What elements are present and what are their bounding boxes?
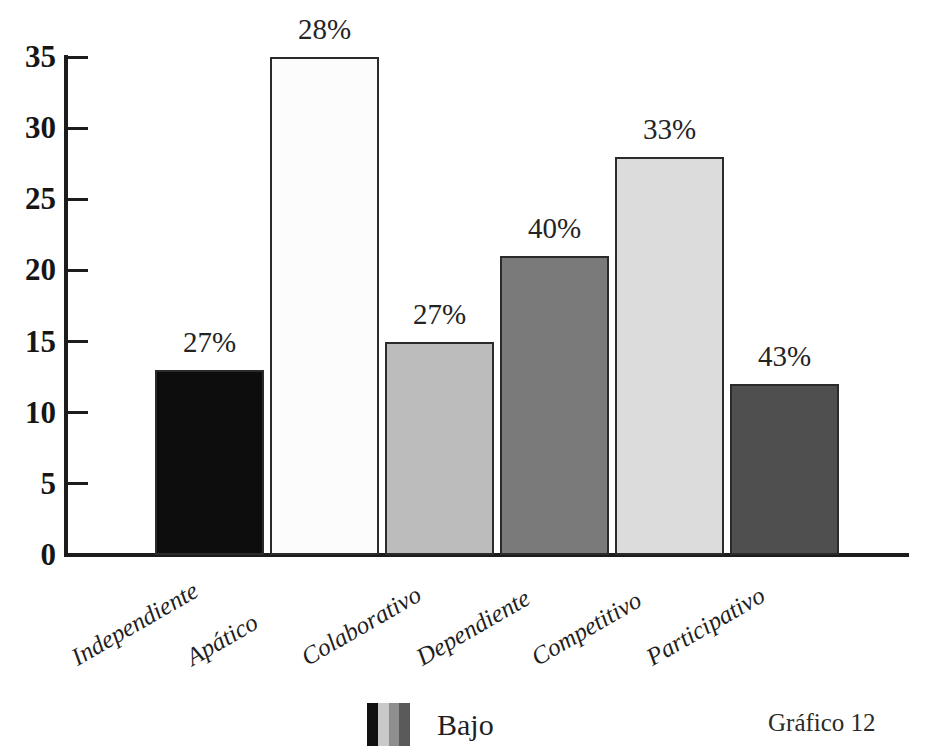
x-axis-category-label: Participativo	[642, 582, 769, 670]
y-axis-tick-label: 30	[4, 112, 56, 143]
bar-value-label: 43%	[720, 342, 849, 371]
bar-value-label: 28%	[260, 15, 389, 44]
x-axis-category-label: Competitivo	[527, 587, 645, 670]
y-axis-tick-label: 25	[4, 183, 56, 214]
legend-swatch-stripe	[399, 703, 410, 746]
bar-value-label: 27%	[145, 328, 274, 357]
bar-chart: 05101520253035 27%28%27%40%33%43% Indepe…	[0, 0, 931, 748]
legend-swatch-bajo	[367, 703, 410, 746]
bar-value-label: 27%	[375, 300, 504, 329]
y-axis-tick-label: 20	[4, 254, 56, 285]
legend-swatch-stripe	[378, 703, 389, 746]
chart-caption: Gráfico 12	[768, 710, 876, 735]
y-axis-tick	[66, 269, 88, 272]
bar	[615, 157, 724, 555]
y-axis-tick	[66, 340, 88, 343]
y-axis-tick-label: 35	[4, 41, 56, 72]
bar	[730, 384, 839, 555]
y-axis-tick-label: 10	[4, 397, 56, 428]
bar	[385, 342, 494, 555]
legend-swatch-stripe	[389, 703, 400, 746]
y-axis-tick-label: 15	[4, 326, 56, 357]
y-axis-tick	[66, 56, 88, 59]
legend-label-bajo: Bajo	[437, 710, 494, 740]
bar	[270, 57, 379, 555]
x-axis-category-label: Dependiente	[412, 585, 534, 670]
bar	[155, 370, 264, 555]
y-axis-tick	[66, 482, 88, 485]
legend-swatch-stripe	[367, 703, 378, 746]
chart-legend: Bajo	[367, 703, 494, 746]
y-axis-tick	[66, 411, 88, 414]
y-axis-tick	[66, 198, 88, 201]
x-axis-category-label: Colaborativo	[297, 581, 425, 669]
y-axis-tick-label: 5	[4, 468, 56, 499]
bar-value-label: 40%	[490, 214, 619, 243]
y-axis-tick	[66, 127, 88, 130]
x-axis-category-label: Apático	[182, 609, 262, 670]
y-axis-tick	[66, 554, 88, 557]
x-axis-category-label: Independiente	[67, 577, 202, 669]
y-axis-tick-label: 0	[4, 539, 56, 570]
bar	[500, 256, 609, 555]
bar-value-label: 33%	[605, 115, 734, 144]
